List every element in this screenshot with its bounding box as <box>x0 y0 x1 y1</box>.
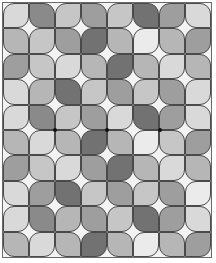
petal-shape <box>107 28 133 53</box>
petal-shape <box>3 181 29 206</box>
quilt-cell <box>133 181 159 206</box>
petal-shape <box>107 181 133 206</box>
intersection-dot <box>105 128 109 132</box>
petal-shape <box>185 130 211 155</box>
quilt-cell <box>29 54 55 79</box>
quilt-cell <box>107 181 133 206</box>
petal-shape <box>107 54 133 79</box>
quilt-cell <box>81 206 107 231</box>
petal-shape <box>133 181 159 206</box>
petal-shape <box>133 54 159 79</box>
petal-shape <box>133 206 159 231</box>
quilt-cell <box>107 54 133 79</box>
quilt-cell <box>29 232 55 257</box>
quilt-cell <box>3 79 29 104</box>
petal-shape <box>3 3 29 28</box>
quilt-cell <box>81 3 107 28</box>
quilt-cell <box>107 3 133 28</box>
petal-shape <box>159 3 185 28</box>
quilt-cell <box>3 105 29 130</box>
petal-shape <box>29 105 55 130</box>
quilt-cell <box>159 105 185 130</box>
petal-shape <box>107 79 133 104</box>
petal-shape <box>81 206 107 231</box>
petal-shape <box>159 155 185 180</box>
petal-shape <box>29 232 55 257</box>
quilt-cell <box>55 181 81 206</box>
petal-shape <box>133 28 159 53</box>
quilt-cell <box>185 105 211 130</box>
quilt-cell <box>185 206 211 231</box>
petal-shape <box>185 54 211 79</box>
quilt-cell <box>81 28 107 53</box>
quilt-cell <box>29 79 55 104</box>
quilt-cell <box>185 155 211 180</box>
petal-shape <box>3 28 29 53</box>
petal-shape <box>3 54 29 79</box>
quilt-cell <box>133 206 159 231</box>
petal-shape <box>55 181 81 206</box>
quilt-cell <box>185 79 211 104</box>
petal-shape <box>185 3 211 28</box>
intersection-dot <box>158 128 162 132</box>
petal-shape <box>29 79 55 104</box>
petal-shape <box>81 105 107 130</box>
petal-shape <box>29 28 55 53</box>
quilt-cell <box>29 130 55 155</box>
quilt-cell <box>107 79 133 104</box>
quilt-cell <box>159 181 185 206</box>
petal-shape <box>185 79 211 104</box>
petal-shape <box>3 130 29 155</box>
petal-shape <box>81 28 107 53</box>
petal-shape <box>81 3 107 28</box>
quilt-cell <box>29 206 55 231</box>
petal-shape <box>3 155 29 180</box>
quilt-cell <box>29 3 55 28</box>
petal-shape <box>185 105 211 130</box>
quilt-cell <box>159 155 185 180</box>
petal-shape <box>159 54 185 79</box>
quilt-cell <box>159 28 185 53</box>
petal-shape <box>3 79 29 104</box>
petal-shape <box>55 206 81 231</box>
petal-shape <box>185 181 211 206</box>
petal-shape <box>133 79 159 104</box>
quilt-cell <box>29 181 55 206</box>
quilt-cell <box>55 54 81 79</box>
petal-shape <box>55 3 81 28</box>
quilt-cell <box>107 155 133 180</box>
quilt-cell <box>185 54 211 79</box>
quilt-cell <box>29 105 55 130</box>
petal-shape <box>159 181 185 206</box>
petal-shape <box>107 105 133 130</box>
quilt-cell <box>3 130 29 155</box>
petal-shape <box>185 232 211 257</box>
quilt-cell <box>3 3 29 28</box>
quilt-cell <box>133 105 159 130</box>
petal-shape <box>159 105 185 130</box>
quilt-cell <box>133 28 159 53</box>
quilt-cell <box>107 105 133 130</box>
quilt-cell <box>81 54 107 79</box>
quilt-cell <box>159 54 185 79</box>
petal-shape <box>185 155 211 180</box>
petal-shape <box>81 155 107 180</box>
quilt-cell <box>29 28 55 53</box>
quilt-cell <box>159 79 185 104</box>
quilt-cell <box>55 3 81 28</box>
petal-shape <box>107 130 133 155</box>
petal-shape <box>107 3 133 28</box>
quilt-cell <box>185 130 211 155</box>
petal-shape <box>55 232 81 257</box>
petal-shape <box>107 155 133 180</box>
quilt-cell <box>185 181 211 206</box>
petal-shape <box>55 54 81 79</box>
quilt-cell <box>55 232 81 257</box>
petal-shape <box>107 232 133 257</box>
quilt-cell <box>133 79 159 104</box>
petal-shape <box>3 206 29 231</box>
quilt-cell <box>185 28 211 53</box>
petal-shape <box>159 28 185 53</box>
quilt-cell <box>133 54 159 79</box>
quilt-cell <box>55 155 81 180</box>
